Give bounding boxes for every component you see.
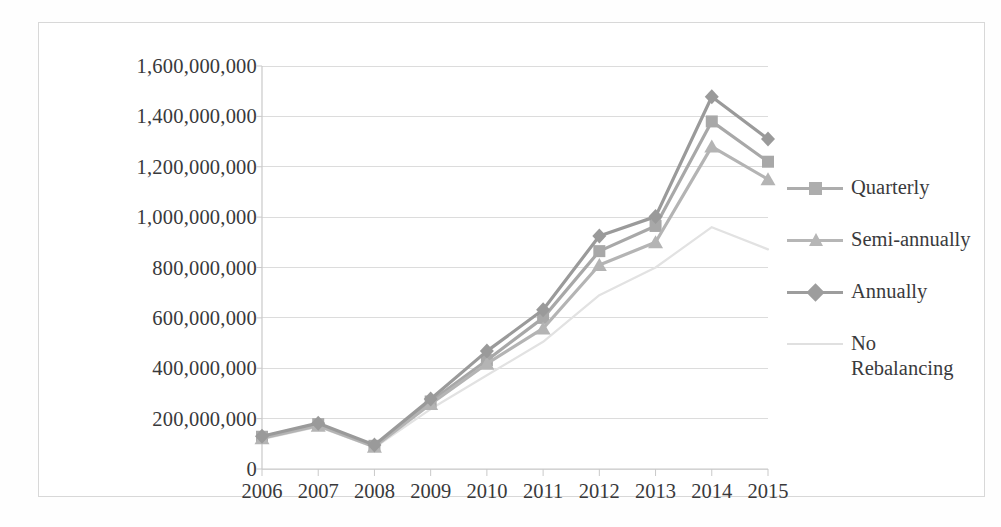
y-axis-tick-label: 400,000,000 — [87, 358, 257, 378]
legend-key — [787, 331, 843, 357]
data-point-marker — [648, 235, 663, 248]
y-axis-tick-label: 0 — [87, 459, 257, 479]
x-axis-tick-label: 2013 — [624, 478, 688, 504]
y-axis-tick-label: 1,000,000,000 — [87, 207, 257, 227]
legend-triangle-marker — [809, 233, 823, 246]
legend-item[interactable]: No Rebalancing — [787, 331, 1001, 381]
legend-item[interactable]: Quarterly — [787, 175, 1001, 205]
legend-item-label: No Rebalancing — [851, 331, 953, 381]
y-axis-labels: 1,600,000,0001,400,000,0001,200,000,0001… — [87, 45, 257, 469]
y-axis-tick-label: 800,000,000 — [87, 258, 257, 278]
y-axis-tick-label: 1,400,000,000 — [87, 106, 257, 126]
series-line — [255, 140, 776, 453]
x-axis-tick-label: 2014 — [680, 478, 744, 504]
legend-line-swatch — [787, 343, 843, 345]
x-axis-tick-label: 2011 — [511, 478, 575, 504]
legend-diamond-marker — [806, 283, 824, 301]
data-point-marker — [593, 245, 605, 257]
x-axis-tick-label: 2006 — [230, 478, 294, 504]
plot-area — [262, 66, 768, 469]
plot-svg — [262, 66, 768, 469]
legend-item-label: Semi-annually — [851, 227, 971, 252]
legend-item[interactable]: Annually — [787, 279, 1001, 309]
legend-key — [787, 279, 843, 305]
chart-frame: 1,600,000,0001,400,000,0001,200,000,0001… — [38, 22, 985, 497]
y-axis-tick-label: 200,000,000 — [87, 409, 257, 429]
x-axis-tick-label: 2012 — [567, 478, 631, 504]
x-axis-labels: 2006200720082009201020112012201320142015 — [262, 478, 768, 512]
data-point-marker — [706, 115, 718, 127]
x-axis-tick-label: 2015 — [736, 478, 800, 504]
x-axis-tick-label: 2007 — [286, 478, 350, 504]
legend-key — [787, 175, 843, 201]
data-point-marker — [762, 156, 774, 168]
gridlines — [262, 66, 768, 469]
y-axis-tick-label: 600,000,000 — [87, 308, 257, 328]
data-point-marker — [761, 172, 776, 185]
series-line — [255, 89, 775, 452]
chart-page: 1,600,000,0001,400,000,0001,200,000,0001… — [0, 0, 1001, 527]
axis-lines — [256, 66, 768, 476]
legend-item[interactable]: Semi-annually — [787, 227, 1001, 257]
legend-item-label: Quarterly — [851, 175, 930, 200]
legend-key — [787, 227, 843, 253]
chart-legend: QuarterlySemi-annuallyAnnuallyNo Rebalan… — [787, 175, 1001, 403]
x-axis-tick-label: 2010 — [455, 478, 519, 504]
series-line — [256, 115, 774, 451]
x-axis-tick-label: 2008 — [342, 478, 406, 504]
y-axis-tick-label: 1,200,000,000 — [87, 157, 257, 177]
x-axis-tick-label: 2009 — [399, 478, 463, 504]
y-axis-tick-label: 1,600,000,000 — [87, 56, 257, 76]
legend-item-label: Annually — [851, 279, 927, 304]
data-point-marker — [704, 140, 719, 153]
legend-square-marker — [809, 182, 822, 195]
